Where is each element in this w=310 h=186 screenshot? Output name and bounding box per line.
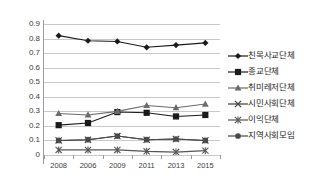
y-axis-tick-label: 0 [18,151,40,159]
x-axis-tick [161,155,162,159]
legend-item-3[interactable]: 취미레저단체 [228,78,308,94]
data-point-diamond [235,53,241,59]
legend-marker-square-icon [228,64,248,76]
data-point-circle [202,138,208,144]
series-line [59,112,206,125]
x-axis-tick [44,155,45,159]
legend-marker-diamond-icon [228,48,248,60]
series-line [59,36,206,48]
x-axis-tick [132,155,133,159]
legend-marker-triangle-icon [228,80,248,92]
x-axis-tick-label: 2011 [132,161,162,170]
legend-label: 친목사교단체 [248,48,295,60]
data-point-circle [144,137,150,143]
legend-marker-x-cross-icon [228,96,248,108]
y-axis-tick-label: 0.7 [18,49,40,57]
data-point-diamond [173,42,179,48]
data-point-square [144,110,150,116]
data-point-diamond [144,44,150,50]
x-axis-tick [103,155,104,159]
series-line [59,136,206,140]
legend-marker-asterisk-icon [228,112,248,124]
series-triangle [55,100,208,117]
data-point-circle [56,138,62,144]
data-point-diamond [56,33,62,39]
series-line [59,104,206,115]
x-axis-tick-label: 2008 [44,161,74,170]
series-line [59,150,206,152]
series-diamond [56,33,209,51]
data-point-square [56,122,62,128]
data-point-square [173,113,179,119]
series-asterisk [56,146,209,155]
x-axis-tick [220,155,221,159]
x-axis-tick [191,155,192,159]
data-point-triangle [55,110,62,116]
data-point-triangle [202,100,209,106]
y-axis-tick-label: 0.5 [18,78,40,86]
plot-area: 00.10.20.30.40.50.60.70.80.9 [44,24,220,155]
data-point-square [85,120,91,126]
series-square [56,109,209,128]
data-point-circle [114,133,120,139]
legend-label: 이익단체 [248,112,279,124]
series-circle [56,133,208,143]
x-axis-tick [73,155,74,159]
series-layer [44,24,220,155]
data-point-circle [235,133,241,139]
data-point-square [235,69,241,75]
legend-item-5[interactable]: 이익단체 [228,110,308,126]
legend-label: 지역사회모임 [248,128,295,140]
legend-label: 취미레저단체 [248,80,295,92]
legend-item-4[interactable]: 시민사회단체 [228,94,308,110]
y-axis-tick-label: 0.6 [18,64,40,72]
y-axis-tick-label: 0.1 [18,136,40,144]
y-axis-tick-label: 0.3 [18,107,40,115]
data-point-diamond [114,38,120,44]
legend: 친목사교단체종교단체취미레저단체시민사회단체이익단체지역사회모임 [228,46,308,142]
data-point-circle [85,137,91,143]
data-point-circle [173,136,179,142]
data-point-square [202,112,208,118]
legend-label: 종교단체 [248,64,279,76]
x-axis-tick-label: 2006 [73,161,103,170]
legend-marker-circle-icon [228,128,248,140]
data-point-triangle [143,102,150,108]
y-axis-tick-label: 0.8 [18,35,40,43]
x-axis-tick-label: 2013 [161,161,191,170]
data-point-diamond [202,40,208,46]
chart-container: 00.10.20.30.40.50.60.70.80.9 20082006200… [0,0,310,186]
y-axis-tick-label: 0.2 [18,122,40,130]
legend-label: 시민사회단체 [248,96,295,108]
y-axis-tick-label: 0.9 [18,20,40,28]
data-point-diamond [85,38,91,44]
legend-item-1[interactable]: 친목사교단체 [228,46,308,62]
y-axis-tick-label: 0.4 [18,93,40,101]
legend-item-6[interactable]: 지역사회모임 [228,126,308,142]
legend-item-2[interactable]: 종교단체 [228,62,308,78]
x-axis-tick-label: 2015 [190,161,220,170]
x-axis-tick-label: 2009 [102,161,132,170]
